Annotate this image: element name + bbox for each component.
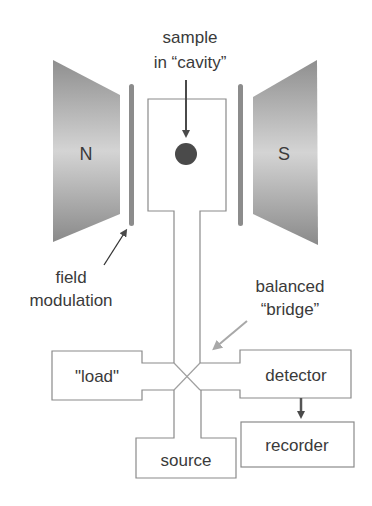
source-label: source — [160, 451, 211, 470]
sample-label-line1: sample — [163, 28, 218, 47]
north-magnet: N — [53, 60, 120, 242]
sample-label-line2: in “cavity” — [154, 53, 227, 72]
south-magnet: S — [253, 60, 318, 245]
bridge-arrow — [216, 321, 247, 347]
north-label: N — [80, 144, 93, 164]
diagram-canvas: N S — [0, 0, 372, 506]
field-modulation-arrow — [104, 232, 125, 265]
load-label: "load" — [75, 367, 119, 386]
field-label-line1: field — [55, 268, 86, 287]
field-label-line2: modulation — [29, 291, 112, 310]
detector-label: detector — [265, 366, 327, 385]
modulation-coil-right — [238, 84, 243, 226]
bridge-label-line1: balanced — [255, 277, 324, 296]
recorder-label: recorder — [265, 436, 329, 455]
bridge-label-line2: “bridge” — [261, 300, 320, 319]
modulation-coil-left — [129, 84, 134, 226]
epr-diagram: N S — [0, 0, 372, 506]
cavity — [148, 99, 226, 363]
bridge-junction — [174, 363, 200, 390]
south-label: S — [278, 144, 290, 164]
sample-dot — [175, 143, 197, 165]
